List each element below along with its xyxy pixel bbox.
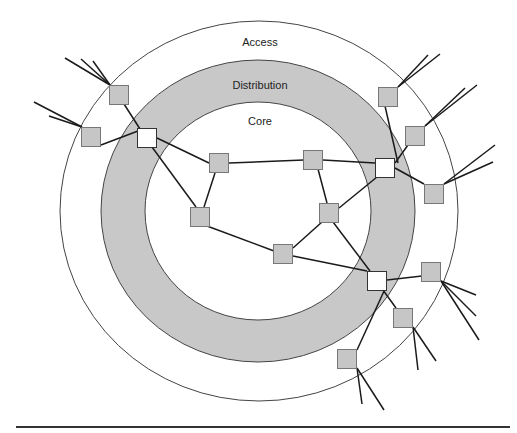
access-switch-node <box>82 128 101 147</box>
access-switch-node <box>379 88 398 107</box>
access-layer-label: Access <box>242 36 278 48</box>
leaf-link <box>398 55 428 87</box>
access-switch-node <box>425 185 444 204</box>
core-layer-label: Core <box>248 115 272 127</box>
layer-rings <box>60 21 458 401</box>
leaf-link <box>34 102 82 127</box>
leaf-link <box>81 59 110 85</box>
core-switch-node <box>274 245 293 264</box>
core-switch-node <box>320 204 339 223</box>
leaf-link <box>425 85 477 126</box>
access-switch-node <box>338 350 357 369</box>
access-switch-node <box>422 263 441 282</box>
distribution-layer-label: Distribution <box>232 79 287 91</box>
leaf-link <box>441 281 476 316</box>
core-switch-node <box>304 151 323 170</box>
leaf-link <box>65 58 110 85</box>
leaf-link <box>441 281 479 340</box>
network-hierarchy-diagram: AccessDistributionCore <box>0 0 517 433</box>
distribution-switch-node <box>376 159 395 178</box>
core-switch-node <box>210 154 229 173</box>
access-switch-node <box>394 309 413 328</box>
leaf-link <box>425 88 465 126</box>
distribution-switch-node <box>368 272 387 291</box>
access-switch-node <box>110 86 129 105</box>
access-switch-node <box>406 127 425 146</box>
distribution-switch-node <box>138 129 157 148</box>
core-switch-node <box>191 208 210 227</box>
leaf-link <box>357 368 384 410</box>
leaf-link <box>398 54 440 87</box>
